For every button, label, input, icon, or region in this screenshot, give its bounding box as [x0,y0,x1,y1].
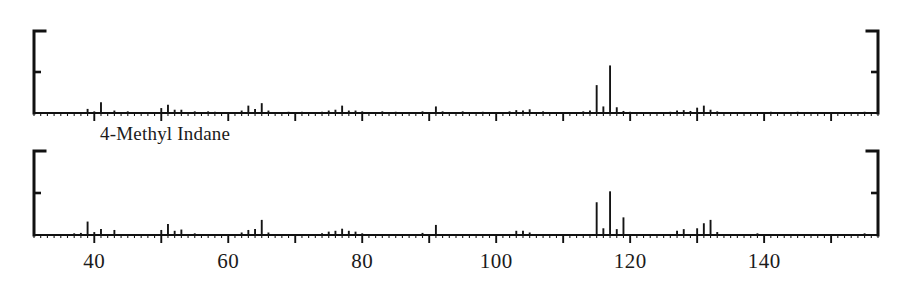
spectrum-panel-bottom-spectrum: 406080100120140 [34,151,878,273]
x-tick-label: 100 [480,249,513,273]
mass-spectrum-figure: 4-Methyl Indane 406080100120140 [0,0,920,286]
x-tick-label: 60 [217,249,239,273]
x-tick-label: 40 [83,249,105,273]
x-tick-labels: 406080100120140 [83,249,780,273]
peak-group [74,191,864,235]
x-tick-label: 120 [614,249,647,273]
spectrum-panel-top-spectrum [34,31,878,121]
x-tick-label: 80 [351,249,373,273]
x-tick-label: 140 [748,249,781,273]
compound-label: 4-Methyl Indane [100,123,230,145]
peak-group [88,65,865,113]
